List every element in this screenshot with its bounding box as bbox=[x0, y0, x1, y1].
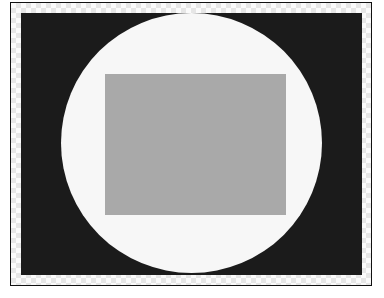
image-canvas bbox=[21, 13, 362, 275]
gray-rectangle bbox=[105, 74, 286, 215]
